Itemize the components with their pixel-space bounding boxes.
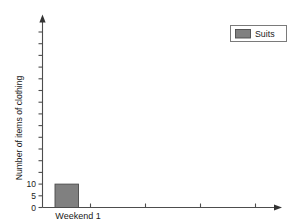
bar-chart: 10 5 0 Number of items of clothing Weeke… [0,0,292,224]
legend-swatch-suits [236,30,251,39]
y-tick-label-0: 0 [31,203,36,213]
chart-page: 10 5 0 Number of items of clothing Weeke… [0,0,292,224]
x-category-label-weekend-1: Weekend 1 [55,211,100,221]
y-axis-ticks [39,32,43,208]
y-tick-label-5: 5 [31,191,36,201]
bar-suits-weekend-1 [55,184,79,207]
y-axis-title: Number of items of clothing [14,75,24,180]
x-axis-arrow-icon [274,204,282,210]
x-axis-ticks [91,204,256,208]
chart-legend: Suits [231,26,287,42]
legend-label-suits: Suits [255,29,275,39]
y-tick-label-10: 10 [27,179,37,189]
y-axis-arrow-icon [39,15,45,23]
